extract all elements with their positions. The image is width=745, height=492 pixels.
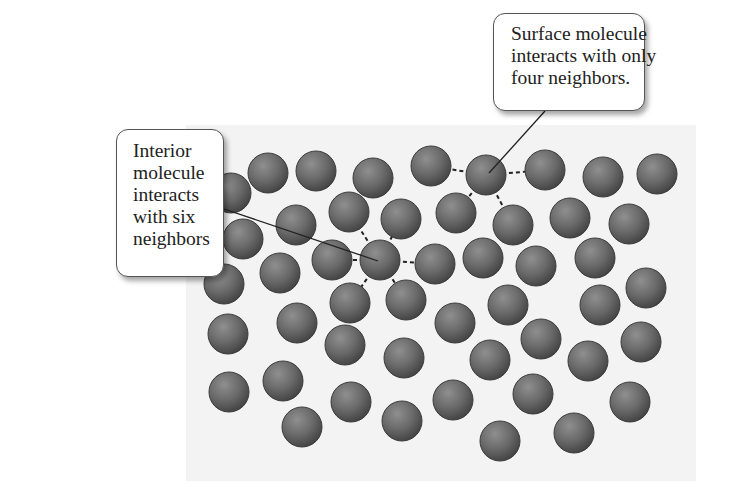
- molecule-sphere: [580, 285, 620, 325]
- molecule-sphere: [386, 280, 426, 320]
- molecule-sphere: [384, 338, 424, 378]
- callout-interior-line-3: interacts: [133, 184, 213, 206]
- molecule-sphere: [525, 150, 565, 190]
- callout-surface-line-2: interacts with only: [511, 45, 634, 67]
- molecule-sphere: [436, 193, 476, 233]
- callout-interior-line-5: neighbors: [133, 228, 213, 250]
- molecule-sphere: [433, 380, 473, 420]
- molecule-sphere: [248, 153, 288, 193]
- callout-surface-line-3: four neighbors.: [511, 67, 634, 89]
- molecule-sphere: [331, 382, 371, 422]
- molecule-sphere: [223, 219, 263, 259]
- callout-interior-molecule: Interior molecule interacts with six nei…: [116, 129, 224, 277]
- callout-interior-line-4: with six: [133, 206, 213, 228]
- molecule-sphere: [360, 240, 400, 280]
- callout-interior-line-2: molecule: [133, 162, 213, 184]
- molecule-sphere: [260, 253, 300, 293]
- molecule-sphere: [493, 205, 533, 245]
- molecule-sphere: [382, 401, 422, 441]
- molecule-sphere: [554, 413, 594, 453]
- molecule-sphere: [516, 246, 556, 286]
- molecule-sphere: [626, 268, 666, 308]
- molecule-sphere: [208, 314, 248, 354]
- molecule-sphere: [411, 146, 451, 186]
- molecule-sphere: [330, 283, 370, 323]
- molecule-sphere: [610, 382, 650, 422]
- molecule-sphere: [282, 407, 322, 447]
- molecule-sphere: [276, 205, 316, 245]
- callout-interior-line-1: Interior: [133, 140, 213, 162]
- molecule-sphere: [521, 319, 561, 359]
- molecule-sphere: [296, 151, 336, 191]
- molecule-sphere: [263, 361, 303, 401]
- molecule-sphere: [381, 199, 421, 239]
- molecule-sphere: [277, 303, 317, 343]
- callout-surface-molecule: Surface molecule interacts with only fou…: [493, 13, 645, 111]
- molecule-sphere: [568, 341, 608, 381]
- molecule-sphere: [621, 322, 661, 362]
- molecule-sphere: [480, 421, 520, 461]
- molecule-sphere: [415, 244, 455, 284]
- molecule-sphere: [575, 238, 615, 278]
- molecule-sphere: [435, 303, 475, 343]
- molecule-sphere: [513, 374, 553, 414]
- molecule-sphere: [488, 285, 528, 325]
- molecules-group: [204, 146, 677, 461]
- molecule-sphere: [609, 204, 649, 244]
- molecule-sphere: [325, 325, 365, 365]
- molecule-sphere: [470, 340, 510, 380]
- molecule-sphere: [550, 198, 590, 238]
- molecule-sphere: [209, 372, 249, 412]
- molecule-sphere: [583, 157, 623, 197]
- molecule-sphere: [637, 154, 677, 194]
- molecule-sphere: [463, 238, 503, 278]
- molecule-sphere: [353, 158, 393, 198]
- molecule-sphere: [329, 192, 369, 232]
- callout-surface-line-1: Surface molecule: [511, 23, 634, 45]
